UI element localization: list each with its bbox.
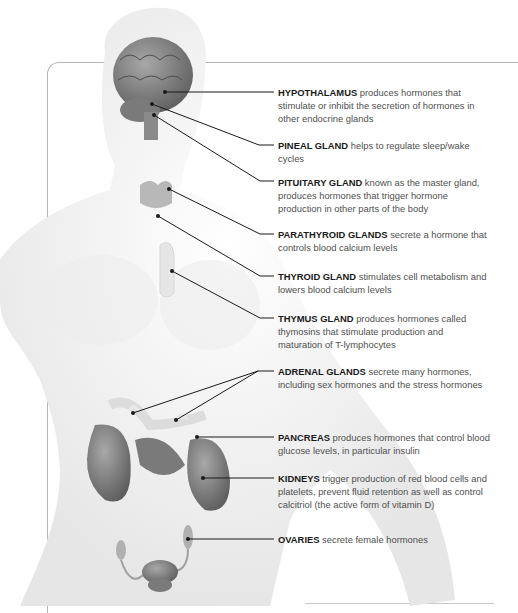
label-title: THYMUS GLAND <box>278 313 354 324</box>
label-title: PANCREAS <box>278 432 330 443</box>
label-kidneys: KIDNEYS trigger production of red blood … <box>278 472 490 512</box>
label-text: secrete female hormones <box>322 534 428 545</box>
thyroid-icon <box>140 181 172 208</box>
label-title: PARATHYROID GLANDS <box>278 229 388 240</box>
label-pineal: PINEAL GLAND helps to regulate sleep/wak… <box>278 139 490 165</box>
label-title: PITUITARY GLAND <box>278 177 362 188</box>
label-adrenal: ADRENAL GLANDS secrete many hormones, in… <box>278 365 490 391</box>
label-thyroid: THYROID GLAND stimulates cell metabolism… <box>278 270 490 296</box>
label-parathyroid: PARATHYROID GLANDS secrete a hormone tha… <box>278 228 490 254</box>
label-title: HYPOTHALAMUS <box>278 87 357 98</box>
label-pancreas: PANCREAS produces hormones that control … <box>278 431 490 457</box>
label-title: KIDNEYS <box>278 473 320 484</box>
label-thymus: THYMUS GLAND produces hormones called th… <box>278 312 490 352</box>
label-hypothalamus: HYPOTHALAMUS produces hormones that stim… <box>278 86 490 126</box>
label-title: THYROID GLAND <box>278 271 356 282</box>
label-title: ADRENAL GLANDS <box>278 366 366 377</box>
label-title: OVARIES <box>278 534 320 545</box>
label-pituitary: PITUITARY GLAND known as the master glan… <box>278 176 490 216</box>
label-title: PINEAL GLAND <box>278 140 348 151</box>
label-ovaries: OVARIES secrete female hormones <box>278 533 490 546</box>
